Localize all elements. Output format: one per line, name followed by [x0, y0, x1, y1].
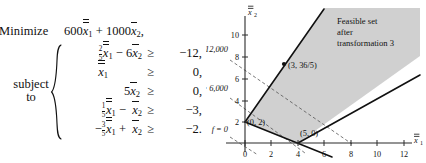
- objective-label: Minimize: [0, 24, 48, 39]
- svg-text:Feasible set: Feasible set: [337, 16, 378, 26]
- svg-text:after: after: [337, 27, 353, 37]
- x-axis-label: x 1: [413, 134, 423, 146]
- svg-text:x: x: [413, 136, 418, 145]
- textbook-figure-page: Minimize 600x1 + 1000x2, subject to 25x1…: [0, 0, 426, 163]
- var-x2: x2: [132, 122, 142, 137]
- leading-minus: −: [95, 122, 102, 136]
- constraint-lhs: 25x1 − 6x2: [99, 46, 142, 62]
- objective-label-f6000: f = 6,000: [206, 84, 229, 93]
- constraint-relation: ≥: [144, 84, 158, 99]
- y-tick-label: 4: [235, 97, 239, 106]
- coeff-fraction: 35: [102, 122, 106, 138]
- x-tick-label: 8: [349, 150, 353, 159]
- objective-var-1: x1: [83, 24, 93, 39]
- y-tick-label: 2: [235, 118, 239, 127]
- point-label-3-36-5: (3, 36/5): [288, 61, 317, 70]
- x-tick-label: 6: [322, 150, 326, 159]
- x-tick-label: 4: [296, 150, 300, 159]
- constraint-rhs: 0,: [160, 84, 202, 99]
- point-label-5-0: (5, 0): [300, 129, 318, 138]
- constraint-rhs: −3,: [160, 103, 202, 118]
- x-tick-label: 0: [243, 150, 247, 159]
- point-label-0-2: (0, 2): [247, 118, 265, 127]
- feasible-region-plot: 0 2 4 6 8 10 12 2 4 6 8 10: [206, 0, 426, 163]
- objective-coeff-1: 600: [64, 24, 83, 38]
- objective-label-f12000: f = 12,000: [206, 45, 229, 54]
- objective-var-2: x2: [131, 24, 141, 39]
- lp-formulation-panel: Minimize 600x1 + 1000x2, subject to 25x1…: [0, 0, 206, 163]
- constraint-row: 25x1 − 6x2 ≥ −12,: [56, 46, 204, 65]
- x-tick-label: 12: [400, 150, 408, 159]
- x-tick-label: 2: [269, 150, 273, 159]
- svg-text:2: 2: [254, 12, 257, 18]
- constraint-relation: ≥: [144, 103, 158, 118]
- x-tick-label: 10: [373, 150, 381, 159]
- constraint-row: −35x1 + x2 ≥ −2.: [56, 122, 204, 141]
- y-tick-label: 6: [235, 75, 239, 84]
- constraint-lhs: −35x1 + x2: [95, 122, 142, 138]
- optimal-vertex-dot: [282, 62, 286, 66]
- constraint-lhs: x1: [98, 65, 108, 80]
- var-x1: x1: [98, 65, 108, 80]
- constraint-lhs: 5x2: [124, 84, 140, 99]
- y-axis-label: x 2: [247, 6, 257, 18]
- objective-coeff-2: 1000: [106, 24, 131, 38]
- objective-expression: 600x1 + 1000x2,: [64, 24, 144, 39]
- constraint-row: 15x1 − x2 ≥ −3,: [56, 103, 204, 122]
- var-x2: x2: [130, 84, 140, 99]
- var-x2: x2: [132, 46, 142, 61]
- constraint-row: 5x2 ≥ 0,: [56, 84, 204, 103]
- svg-text:x: x: [247, 8, 252, 17]
- constraint-rhs: −12,: [160, 46, 202, 61]
- constraint-relation: ≥: [144, 65, 158, 80]
- coeff-fraction: 15: [102, 103, 106, 119]
- constraint-rhs: −2.: [160, 122, 202, 137]
- objective-tail: ,: [141, 24, 144, 38]
- objective-label-f0: f = 0: [212, 125, 229, 134]
- constraint-list: 25x1 − 6x2 ≥ −12, x1 ≥ 0, 5x2 ≥: [56, 46, 204, 141]
- var-x1: x1: [106, 122, 116, 137]
- constraint-relation: ≥: [144, 46, 158, 61]
- constraint-rhs: 0,: [160, 65, 202, 80]
- plot-svg: 0 2 4 6 8 10 12 2 4 6 8 10: [206, 0, 426, 163]
- y-tick-label: 10: [231, 31, 239, 40]
- y-tick-label: 8: [235, 53, 239, 62]
- term2-sign: −: [116, 46, 123, 60]
- constraint-relation: ≥: [144, 122, 158, 137]
- term2-sign: +: [119, 122, 126, 136]
- term2-sign: −: [119, 103, 126, 117]
- svg-text:1: 1: [420, 140, 423, 146]
- objective-plus: +: [93, 24, 106, 38]
- var-x2: x2: [132, 103, 142, 118]
- subject-to-line-2: to: [8, 91, 54, 104]
- subject-to-label: subject to: [8, 78, 54, 104]
- feasible-region-shape: [245, 8, 420, 143]
- svg-text:transformation 3: transformation 3: [337, 38, 394, 48]
